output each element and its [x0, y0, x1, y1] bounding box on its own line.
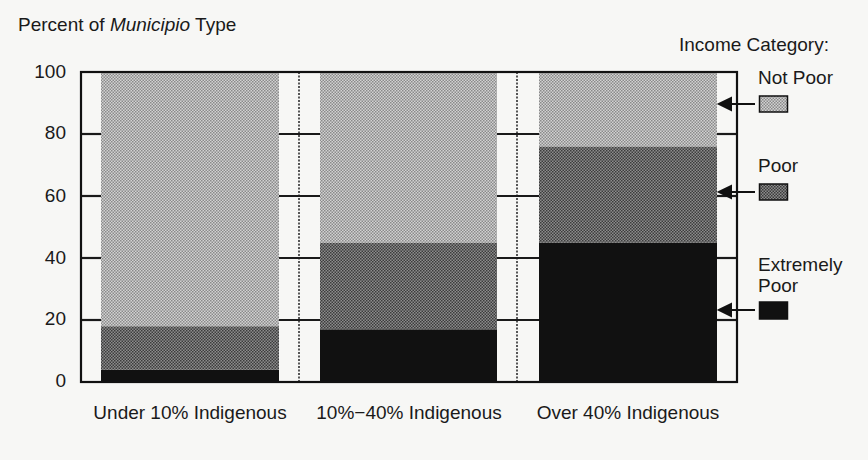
- x-label-under-10: Under 10% Indigenous: [62, 402, 318, 424]
- legend-swatch-poor: [760, 184, 788, 200]
- legend-swatch-not-poor: [760, 96, 788, 112]
- bar-segment-not-poor: [320, 72, 497, 243]
- bar-segment-poor: [320, 243, 497, 330]
- bar-segment-extremely-poor: [320, 329, 497, 382]
- bar-group: [101, 72, 717, 382]
- x-label-10-40: 10%−40% Indigenous: [281, 402, 537, 424]
- legend-label-extremely-poor-line1: Extremely: [758, 254, 842, 276]
- bar-segment-not-poor: [101, 72, 279, 326]
- bar-segment-poor: [539, 146, 717, 242]
- x-label-over-40: Over 40% Indigenous: [500, 402, 756, 424]
- bar-segment-extremely-poor: [539, 243, 717, 383]
- arrow-head-extremely-poor-icon: [719, 304, 731, 316]
- plot-area: [0, 0, 868, 460]
- bar-segment-extremely-poor: [101, 370, 279, 382]
- legend-label-extremely-poor-line2: Poor: [758, 275, 798, 297]
- bar-segment-poor: [101, 326, 279, 369]
- legend-label-poor: Poor: [758, 155, 798, 177]
- arrow-head-not-poor-icon: [719, 98, 731, 110]
- legend-swatch-extremely-poor: [760, 302, 788, 319]
- legend-label-not-poor: Not Poor: [758, 67, 833, 89]
- legend-title: Income Category:: [679, 34, 829, 56]
- bar-segment-not-poor: [539, 72, 717, 146]
